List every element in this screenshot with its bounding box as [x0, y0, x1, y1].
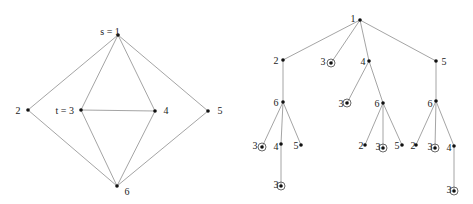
node-dot-icon — [79, 108, 83, 112]
graph-node: 2 — [16, 105, 30, 116]
tree-node: 5 — [395, 140, 404, 151]
node-label: 3 — [376, 141, 381, 152]
node-label: 3 — [253, 140, 258, 151]
node-dot-icon — [452, 144, 456, 148]
graph-edge — [81, 110, 155, 111]
node-dot-icon — [260, 145, 264, 149]
path-enumeration-tree: 12345636634523523433 — [253, 13, 459, 195]
node-dot-icon — [452, 189, 456, 193]
graph-node: 4 — [153, 105, 168, 116]
graph-node: 5 — [206, 105, 222, 116]
tree-node: 3 — [339, 98, 352, 109]
node-dot-icon — [381, 146, 385, 150]
tree-edge — [283, 20, 360, 60]
graph-node: s = 1 — [100, 26, 120, 37]
tree-node: 4 — [361, 56, 371, 67]
tree-edge — [283, 102, 301, 145]
node-label: 3 — [321, 56, 326, 67]
node-dot-icon — [115, 184, 119, 188]
tree-node: 2 — [359, 140, 367, 151]
node-dot-icon — [206, 109, 210, 113]
node-label: 4 — [274, 141, 279, 152]
node-label: 2 — [411, 140, 416, 151]
tree-node: 3 — [428, 141, 440, 152]
graph-edge — [118, 35, 155, 111]
node-dot-icon — [299, 143, 303, 147]
node-dot-icon — [433, 146, 437, 150]
tree-edge — [331, 20, 360, 63]
graph-edge — [117, 111, 208, 186]
tree-edge — [262, 102, 283, 147]
node-dot-icon — [279, 184, 283, 188]
graph-node: t = 3 — [56, 105, 83, 116]
undirected-graph: s = 12t = 3456 — [16, 26, 223, 197]
node-dot-icon — [434, 59, 438, 63]
node-label: t = 3 — [56, 105, 74, 116]
tree-edge — [347, 61, 369, 103]
node-label: 2 — [359, 140, 364, 151]
graph-edge — [117, 111, 155, 186]
node-dot-icon — [153, 109, 157, 113]
node-dot-icon — [400, 143, 404, 147]
node-label: 4 — [361, 56, 366, 67]
graph-node: 6 — [115, 184, 129, 197]
tree-edge — [369, 61, 383, 103]
node-dot-icon — [279, 142, 283, 146]
node-label: 3 — [339, 98, 344, 109]
tree-edge — [436, 101, 454, 146]
node-label: 5 — [218, 105, 223, 116]
node-dot-icon — [434, 99, 438, 103]
node-label: 5 — [442, 56, 447, 67]
node-label: 3 — [428, 141, 433, 152]
node-label: 1 — [351, 13, 356, 24]
node-dot-icon — [367, 59, 371, 63]
node-label: 2 — [16, 105, 21, 116]
node-label: s = 1 — [100, 26, 120, 37]
tree-edge — [435, 101, 436, 148]
graph-edge — [81, 35, 118, 110]
node-label: 5 — [395, 140, 400, 151]
node-label: 6 — [375, 98, 380, 109]
tree-node: 2 — [411, 140, 418, 151]
tree-node: 3 — [376, 141, 388, 152]
node-dot-icon — [363, 143, 367, 147]
tree-edge — [383, 103, 402, 145]
tree-edge — [365, 103, 383, 145]
node-dot-icon — [281, 100, 285, 104]
node-dot-icon — [26, 108, 30, 112]
tree-node: 5 — [294, 140, 303, 151]
node-label: 2 — [274, 55, 279, 66]
graph-edge — [28, 110, 117, 186]
tree-edge — [416, 101, 436, 145]
tree-node: 3 — [447, 184, 459, 195]
tree-node: 3 — [321, 56, 336, 67]
node-dot-icon — [329, 61, 333, 65]
graph-edge — [81, 110, 117, 186]
node-dot-icon — [381, 101, 385, 105]
tree-node: 3 — [253, 140, 267, 151]
node-dot-icon — [345, 101, 349, 105]
graph-edge — [28, 35, 118, 110]
tree-edge — [281, 102, 283, 144]
tree-edges — [262, 20, 454, 191]
node-dot-icon — [281, 58, 285, 62]
node-label: 3 — [447, 184, 452, 195]
tree-edge — [360, 20, 436, 61]
diagram-canvas: s = 12t = 3456 12345636634523523433 — [0, 0, 473, 204]
graph-edge — [118, 35, 208, 111]
node-label: 6 — [274, 97, 279, 108]
node-label: 6 — [125, 186, 130, 197]
node-label: 5 — [294, 140, 299, 151]
tree-edge — [360, 20, 369, 61]
node-label: 4 — [164, 105, 169, 116]
node-label: 4 — [447, 142, 452, 153]
node-dot-icon — [358, 18, 362, 22]
node-label: 6 — [428, 98, 433, 109]
node-label: 3 — [274, 179, 279, 190]
tree-node: 3 — [274, 179, 286, 190]
graph-nodes: s = 12t = 3456 — [16, 26, 223, 197]
